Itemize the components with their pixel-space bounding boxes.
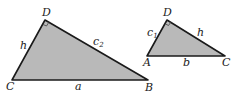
large-triangle-shape <box>12 20 148 80</box>
side-label-h: h <box>20 39 27 52</box>
small-triangle-shape <box>147 20 225 56</box>
vertex-label-D: D <box>162 6 172 19</box>
vertex-label-A: A <box>142 56 151 69</box>
side-label-c: c2 <box>93 35 104 49</box>
vertex-label-D: D <box>41 6 51 19</box>
diagram-canvas: D C B h c2 a D A C c1 h b <box>0 0 241 100</box>
side-label-b: b <box>183 56 190 69</box>
side-label-a: a <box>75 80 82 93</box>
vertex-label-B: B <box>144 81 153 94</box>
vertex-label-C: C <box>6 80 15 93</box>
vertex-label-C: C <box>222 56 231 69</box>
large-triangle: D C B h c2 a <box>6 6 153 94</box>
side-label-h: h <box>197 26 204 39</box>
small-triangle: D A C c1 h b <box>142 6 231 69</box>
side-label-c1: c1 <box>147 26 158 40</box>
